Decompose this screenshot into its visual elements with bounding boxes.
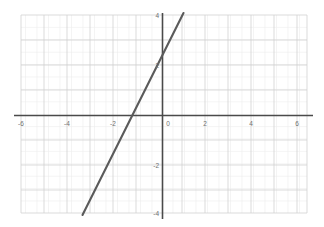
- x-tick-label: -6: [18, 120, 24, 127]
- x-tick-label: 6: [295, 120, 299, 127]
- x-tick-label: 4: [249, 120, 253, 127]
- x-tick-label: 0: [166, 120, 170, 127]
- plot-area: -6 -4 -2 0 2 4 6 4 2 -2 -4: [0, 0, 324, 227]
- y-tick-label: -2: [153, 162, 159, 169]
- cartesian-graph: -6 -4 -2 0 2 4 6 4 2 -2 -4: [0, 0, 324, 227]
- y-tick-label: -4: [153, 210, 159, 217]
- y-tick-label: 4: [155, 12, 159, 19]
- x-tick-label: -2: [110, 120, 116, 127]
- y-tick-label: 2: [155, 62, 159, 69]
- x-tick-label: -4: [64, 120, 70, 127]
- x-tick-label: 2: [203, 120, 207, 127]
